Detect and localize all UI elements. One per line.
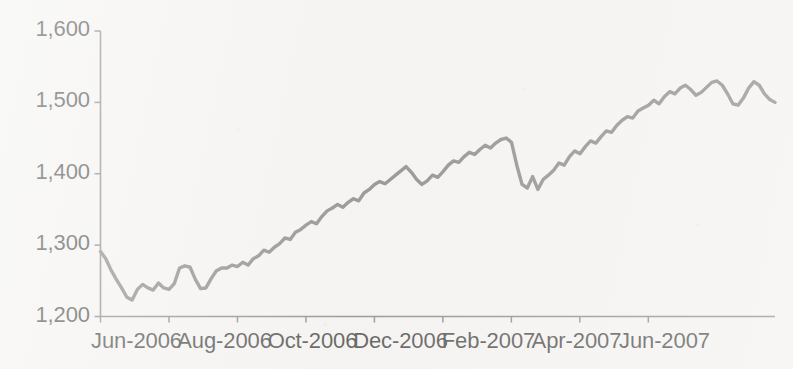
x-axis-tick-label: Dec-2006	[353, 330, 448, 352]
axis-lines	[100, 31, 775, 317]
y-axis-tick-label: 1,500	[0, 89, 90, 111]
line-chart: 1,2001,3001,4001,5001,600 Jun-2006Aug-20…	[0, 0, 793, 369]
x-axis-ticks	[101, 317, 649, 323]
x-axis-tick-label: Jun-2007	[619, 330, 710, 352]
chart-plot-area	[0, 0, 793, 369]
x-axis-tick-label: Apr-2007	[532, 330, 622, 352]
x-axis-tick-label: Feb-2007	[442, 330, 535, 352]
y-axis-tick-label: 1,400	[0, 161, 90, 183]
y-axis-tick-label: 1,300	[0, 232, 90, 254]
x-axis-tick-label: Oct-2006	[268, 330, 358, 352]
series-line-index-level	[101, 81, 776, 300]
y-axis-tick-label: 1,600	[0, 18, 90, 40]
x-axis-tick-label: Jun-2006	[91, 330, 182, 352]
x-axis-tick-label: Aug-2006	[177, 330, 272, 352]
y-axis-tick-label: 1,200	[0, 304, 90, 326]
y-axis-ticks	[95, 31, 101, 317]
